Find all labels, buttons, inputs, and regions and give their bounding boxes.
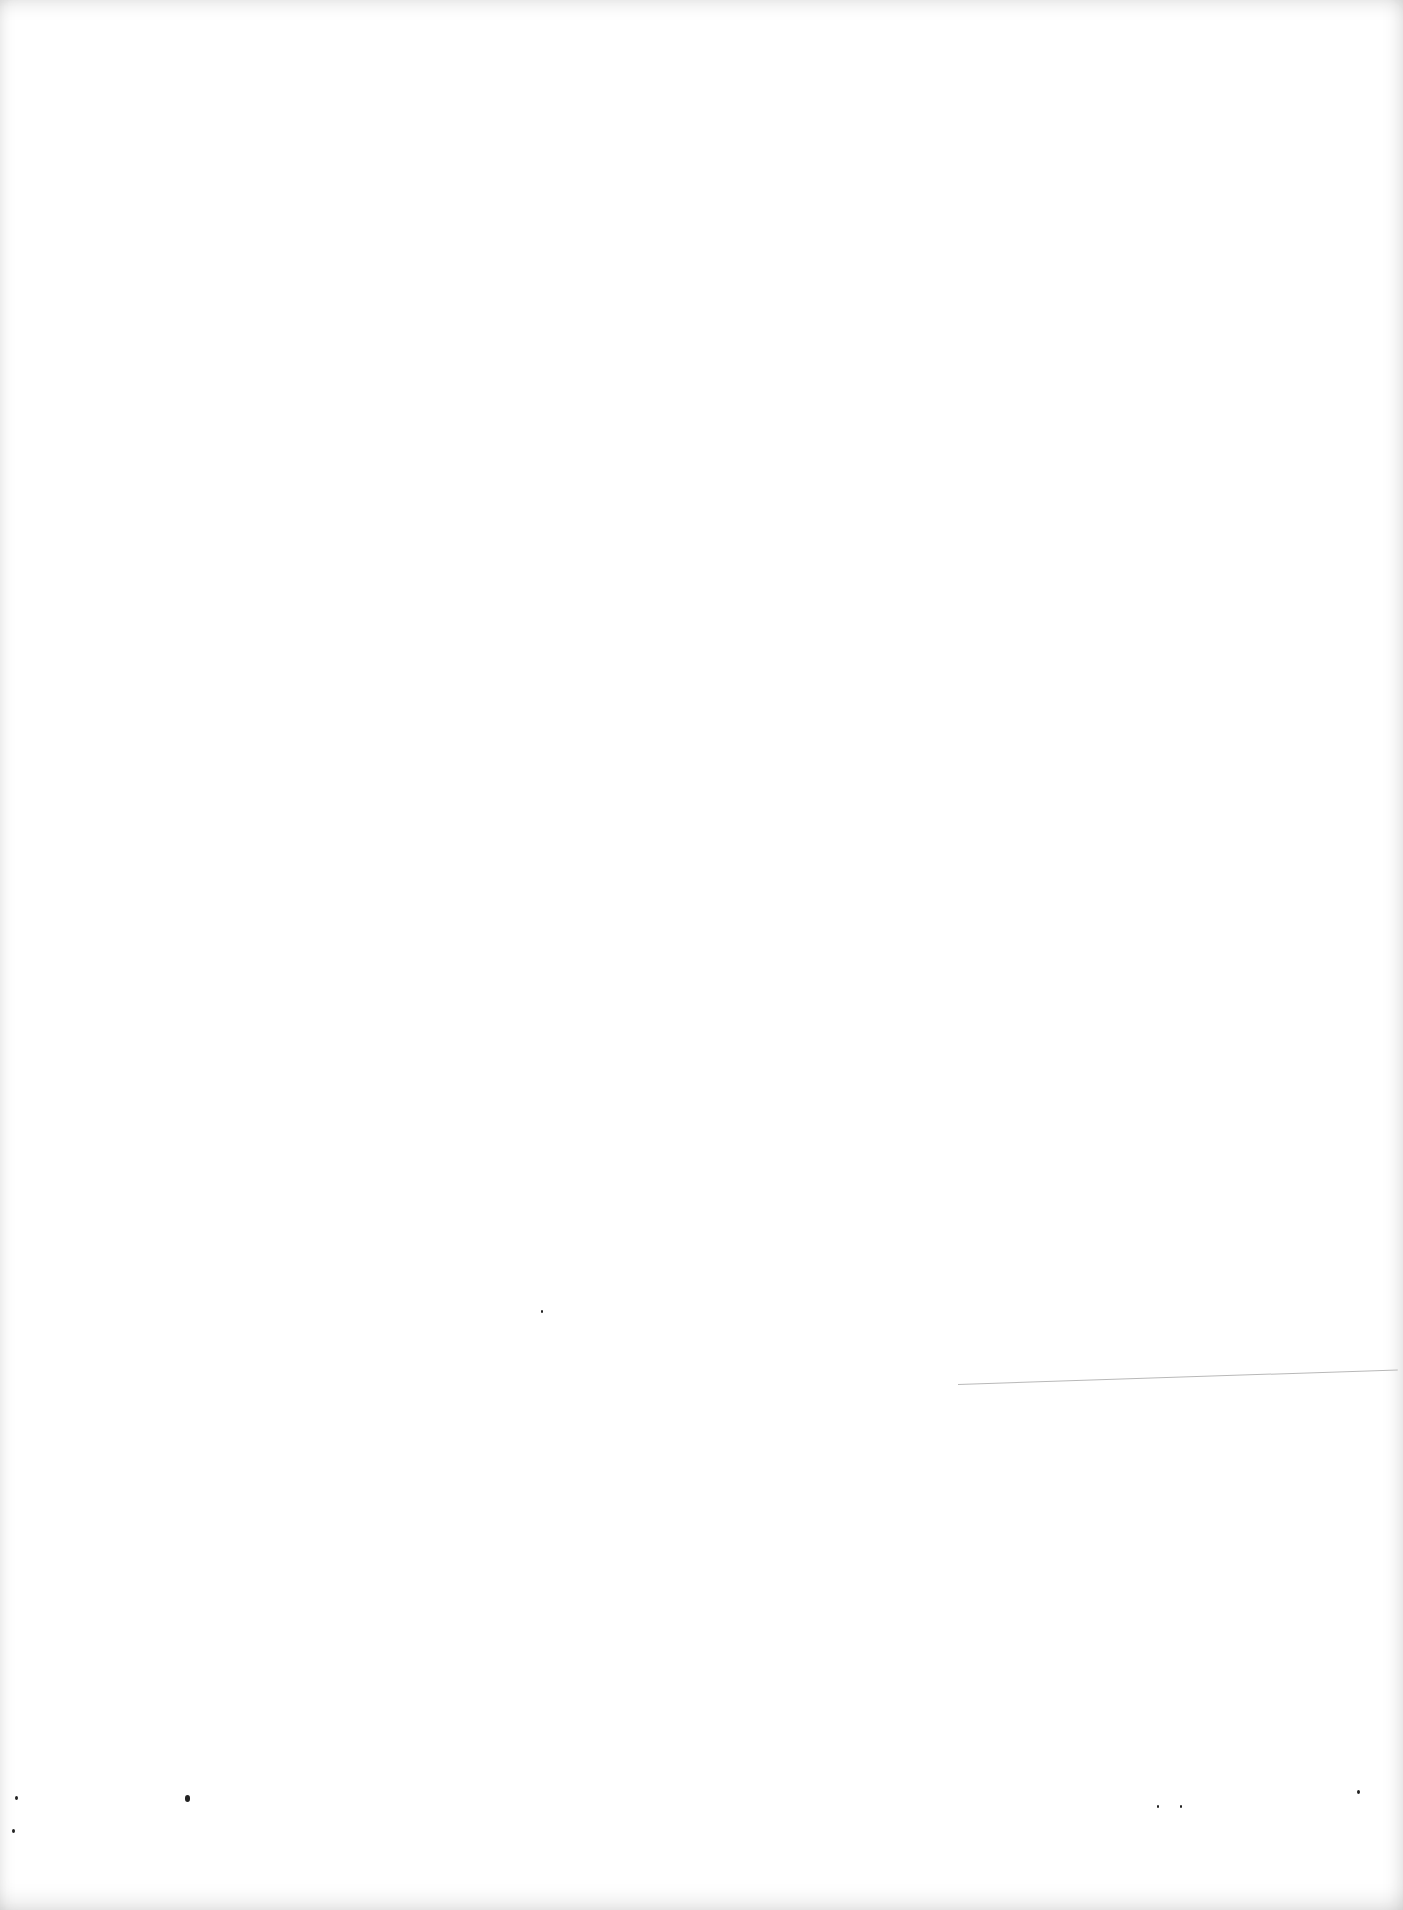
speck-mark xyxy=(185,1795,190,1802)
speck-mark xyxy=(12,1829,15,1833)
faint-pencil-line xyxy=(958,1369,1398,1385)
speck-mark xyxy=(541,1310,543,1313)
speck-mark xyxy=(1180,1805,1182,1808)
blank-page xyxy=(0,0,1403,1910)
speck-mark xyxy=(15,1796,18,1800)
speck-mark xyxy=(1357,1790,1360,1794)
speck-mark xyxy=(1157,1805,1159,1808)
